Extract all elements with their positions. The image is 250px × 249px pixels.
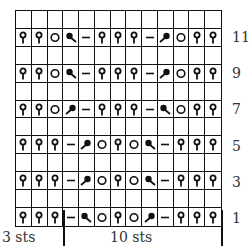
chart-cell — [126, 47, 142, 65]
twisted-stitch-icon — [17, 211, 29, 224]
chart-cell — [126, 83, 142, 101]
chart-cell — [189, 47, 205, 65]
chart-cell — [16, 172, 32, 190]
chart-cell — [174, 83, 190, 101]
chart-cell — [174, 11, 190, 29]
chart-cell — [111, 83, 127, 101]
chart-cell — [48, 83, 64, 101]
chart-cell — [205, 208, 221, 226]
twisted-stitch-icon — [33, 67, 45, 80]
twisted-stitch-icon — [112, 138, 124, 151]
chart-cell — [32, 118, 48, 136]
chart-cell — [79, 11, 95, 29]
chart-cell — [189, 118, 205, 136]
chart-cell — [126, 11, 142, 29]
chart-cell — [158, 101, 174, 119]
twisted-stitch-icon — [49, 174, 61, 187]
twisted-stitch-icon — [96, 31, 108, 44]
chart-cell — [189, 172, 205, 190]
chart-cell — [32, 65, 48, 83]
yarn-over-icon — [128, 211, 140, 224]
chart-cell — [63, 118, 79, 136]
chart-cell — [205, 172, 221, 190]
chart-cell — [111, 190, 127, 208]
left-leaning-decrease-icon — [144, 138, 156, 151]
chart-cell — [205, 101, 221, 119]
chart-cell — [32, 101, 48, 119]
chart-cell — [16, 118, 32, 136]
chart-cell — [16, 190, 32, 208]
twisted-stitch-icon — [33, 138, 45, 151]
chart-cell — [174, 101, 190, 119]
chart-cell — [111, 11, 127, 29]
repeat-end-divider — [221, 210, 223, 246]
chart-cell — [142, 47, 158, 65]
chart-cell — [189, 65, 205, 83]
chart-cell — [126, 154, 142, 172]
chart-cell — [32, 154, 48, 172]
chart-cell — [79, 83, 95, 101]
chart-cell — [32, 83, 48, 101]
chart-cell — [63, 190, 79, 208]
chart-cell — [63, 172, 79, 190]
chart-cell — [142, 172, 158, 190]
yarn-over-icon — [96, 174, 108, 187]
row-number-label: 9 — [232, 66, 241, 80]
chart-cell — [205, 136, 221, 154]
twisted-stitch-icon — [49, 138, 61, 151]
purl-dash-icon — [159, 211, 171, 224]
yarn-over-icon — [175, 31, 187, 44]
chart-cell — [63, 136, 79, 154]
twisted-stitch-icon — [33, 211, 45, 224]
purl-dash-icon — [144, 67, 156, 80]
chart-cell — [142, 11, 158, 29]
chart-cell — [174, 208, 190, 226]
chart-cell — [205, 154, 221, 172]
chart-cell — [111, 136, 127, 154]
purl-dash-icon — [65, 138, 77, 151]
repeat-stitches-label: 10 sts — [110, 229, 152, 245]
twisted-stitch-icon — [191, 67, 203, 80]
chart-cell — [142, 208, 158, 226]
twisted-stitch-icon — [207, 103, 219, 116]
chart-cell — [189, 208, 205, 226]
row-number-label: 7 — [232, 102, 241, 116]
twisted-stitch-icon — [17, 103, 29, 116]
twisted-stitch-icon — [128, 103, 140, 116]
twisted-stitch-icon — [96, 103, 108, 116]
purl-dash-icon — [80, 31, 92, 44]
twisted-stitch-icon — [191, 174, 203, 187]
yarn-over-icon — [49, 31, 61, 44]
chart-cell — [63, 154, 79, 172]
twisted-stitch-icon — [207, 138, 219, 151]
twisted-stitch-icon — [175, 174, 187, 187]
chart-cell — [48, 208, 64, 226]
chart-cell — [48, 190, 64, 208]
chart-cell — [16, 83, 32, 101]
chart-cell — [16, 154, 32, 172]
chart-cell — [158, 118, 174, 136]
twisted-stitch-icon — [128, 31, 140, 44]
chart-cell — [189, 190, 205, 208]
chart-cell — [95, 190, 111, 208]
chart-cell — [126, 101, 142, 119]
chart-cell — [32, 11, 48, 29]
chart-cell — [174, 65, 190, 83]
twisted-stitch-icon — [17, 31, 29, 44]
chart-cell — [95, 29, 111, 47]
chart-cell — [48, 65, 64, 83]
chart-cell — [111, 47, 127, 65]
chart-cell — [174, 190, 190, 208]
knitting-chart-grid — [15, 10, 222, 227]
right-leaning-decrease-icon — [159, 67, 171, 80]
row-number-label: 11 — [232, 30, 250, 44]
chart-cell — [111, 65, 127, 83]
chart-cell — [158, 29, 174, 47]
chart-cell — [63, 47, 79, 65]
purl-dash-icon — [65, 174, 77, 187]
yarn-over-icon — [49, 67, 61, 80]
chart-cell — [16, 29, 32, 47]
chart-cell — [63, 101, 79, 119]
right-leaning-decrease-icon — [159, 31, 171, 44]
purl-dash-icon — [80, 67, 92, 80]
